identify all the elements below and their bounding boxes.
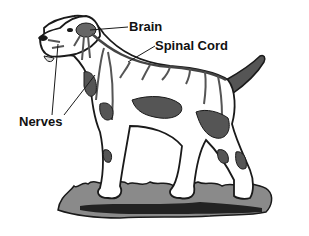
nerves-leader-line-1	[52, 44, 58, 115]
brain-leader-line	[90, 27, 128, 30]
spinal-cord-leader-line	[128, 46, 155, 62]
spinal-cord-label: Spinal Cord	[155, 39, 228, 52]
brain-label: Brain	[129, 20, 162, 33]
nerves-label: Nerves	[19, 115, 62, 128]
nerves-leader-line-2	[64, 75, 95, 115]
